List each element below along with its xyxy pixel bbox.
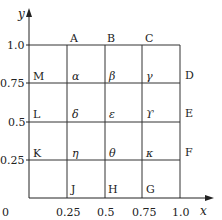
y-axis-arrow-icon <box>26 8 32 17</box>
x-tick-0.5: 0.5 <box>97 206 115 219</box>
grid-diagram: x y 0 0.25 0.5 0.75 1.0 1.0 0.75 0.5 0.2… <box>0 0 222 220</box>
label-F: F <box>185 146 193 159</box>
label-E: E <box>185 107 193 120</box>
y-tick-0.25: 0.25 <box>0 154 25 167</box>
x-axis-label: x <box>200 204 207 218</box>
label-gamma: γ <box>146 70 153 83</box>
y-tick-0.75: 0.75 <box>0 77 25 90</box>
x-tick-1.0: 1.0 <box>172 206 190 219</box>
axes <box>26 12 210 198</box>
y-tick-1.0: 1.0 <box>7 39 25 52</box>
label-C: C <box>145 32 153 45</box>
label-epsilon: ε <box>109 108 115 121</box>
label-L: L <box>33 108 41 121</box>
label-G: G <box>146 183 155 196</box>
origin-label: 0 <box>2 206 9 219</box>
label-theta: θ <box>109 147 116 160</box>
label-kappa: κ <box>145 147 154 160</box>
y-axis-label: y <box>17 7 25 21</box>
label-H: H <box>108 183 118 196</box>
x-tick-0.75: 0.75 <box>132 206 157 219</box>
label-M: M <box>33 70 44 83</box>
label-upsilon: ϒ <box>146 108 154 121</box>
label-eta: η <box>72 147 79 160</box>
label-K: K <box>33 147 42 160</box>
x-tick-0.25: 0.25 <box>56 206 81 219</box>
label-beta: β <box>108 70 115 83</box>
label-D: D <box>185 69 194 82</box>
label-alpha: α <box>72 70 80 83</box>
grid-lines <box>29 45 180 198</box>
y-tick-0.5: 0.5 <box>8 116 26 129</box>
label-J: J <box>70 183 75 196</box>
x-axis-arrow-icon <box>205 195 214 201</box>
label-delta: δ <box>72 108 79 121</box>
label-A: A <box>69 32 79 45</box>
label-B: B <box>107 32 115 45</box>
